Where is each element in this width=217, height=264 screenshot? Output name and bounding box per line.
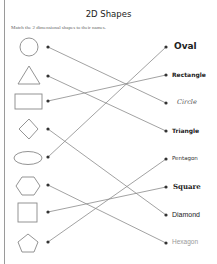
label-pentagon: Pentagon [172, 156, 198, 162]
line-circle [48, 47, 166, 103]
dot-left-square[interactable] [46, 210, 49, 213]
line-oval [48, 47, 166, 157]
oval-shape-icon [14, 152, 42, 165]
diamond-shape-icon [19, 119, 38, 139]
label-diamond: Diamond [172, 211, 200, 218]
dot-left-rectangle[interactable] [46, 99, 49, 102]
dot-right-rectangle[interactable] [164, 73, 167, 76]
hexagon-shape-icon [16, 177, 40, 195]
dot-right-square[interactable] [164, 185, 167, 188]
dot-left-pentagon[interactable] [46, 240, 49, 243]
worksheet-page: 2D Shapes Match the 2 dimensional shapes… [0, 0, 217, 264]
label-square: Square [173, 183, 201, 190]
dot-right-diamond[interactable] [164, 213, 167, 216]
line-triangle [48, 76, 166, 131]
line-pentagon [48, 159, 166, 242]
dot-left-circle[interactable] [46, 45, 49, 48]
label-triangle: Triangle [172, 128, 199, 134]
dot-right-circle[interactable] [164, 101, 167, 104]
line-diamond [48, 129, 166, 215]
dot-left-hexagon[interactable] [46, 183, 49, 186]
dot-left-triangle[interactable] [46, 74, 49, 77]
square-shape-icon [18, 203, 37, 222]
label-circle: Circle [177, 99, 197, 106]
label-oval: Oval [174, 42, 197, 51]
dot-right-pentagon[interactable] [164, 157, 167, 160]
label-rectangle: Rectangle [172, 72, 206, 78]
triangle-shape-icon [18, 66, 40, 84]
rectangle-shape-icon [15, 94, 42, 109]
connection-lines [48, 47, 166, 243]
dot-left-diamond[interactable] [46, 127, 49, 130]
line-rectangle [48, 75, 166, 101]
circle-shape-icon [20, 38, 38, 56]
dot-left-oval[interactable] [46, 155, 49, 158]
line-hexagon [48, 185, 166, 243]
label-hexagon: Hexagon [172, 239, 198, 246]
pentagon-shape-icon [18, 234, 38, 252]
dot-right-triangle[interactable] [164, 129, 167, 132]
line-square [48, 187, 166, 212]
dot-right-oval[interactable] [164, 45, 167, 48]
dot-right-hexagon[interactable] [164, 241, 167, 244]
